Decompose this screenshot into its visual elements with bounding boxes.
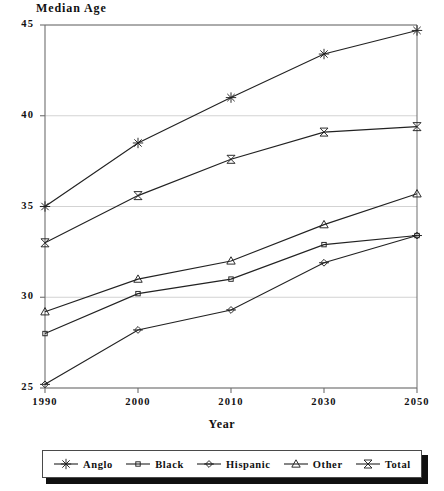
x-tick-label: 2050 <box>387 396 444 407</box>
star-marker-icon <box>53 457 79 471</box>
axis-ticks <box>40 25 417 393</box>
legend-label: Black <box>155 459 184 470</box>
y-tick-label: 45 <box>4 18 34 29</box>
x-tick-label: 2030 <box>294 396 354 407</box>
bowtie-marker-icon <box>355 457 381 471</box>
series-anglo <box>40 25 422 211</box>
median-age-line-chart: Median Age 4540353025 199020002010203020… <box>0 0 444 491</box>
y-tick-label: 40 <box>4 109 34 120</box>
series-black <box>43 233 419 335</box>
y-tick-label: 30 <box>4 290 34 301</box>
square-marker-icon <box>125 457 151 471</box>
legend-item-other[interactable]: Other <box>283 457 343 471</box>
y-tick-label: 35 <box>4 200 34 211</box>
legend: AngloBlackHispanicOtherTotal <box>42 450 422 478</box>
x-tick-label: 1990 <box>15 396 75 407</box>
legend-item-black[interactable]: Black <box>125 457 184 471</box>
legend-item-hispanic[interactable]: Hispanic <box>196 457 270 471</box>
triangle-marker-icon <box>283 457 309 471</box>
series-other <box>41 190 421 315</box>
series-total <box>41 123 421 247</box>
legend-item-total[interactable]: Total <box>355 457 411 471</box>
legend-item-anglo[interactable]: Anglo <box>53 457 113 471</box>
legend-label: Hispanic <box>226 459 270 470</box>
x-tick-label: 2000 <box>108 396 168 407</box>
x-axis-title: Year <box>0 417 444 432</box>
legend-label: Anglo <box>83 459 113 470</box>
x-tick-label: 2010 <box>201 396 261 407</box>
series-hispanic <box>40 232 422 388</box>
gridlines <box>45 25 417 388</box>
legend-label: Other <box>313 459 343 470</box>
y-tick-label: 25 <box>4 381 34 392</box>
legend-label: Total <box>385 459 411 470</box>
diamond-marker-icon <box>196 457 222 471</box>
